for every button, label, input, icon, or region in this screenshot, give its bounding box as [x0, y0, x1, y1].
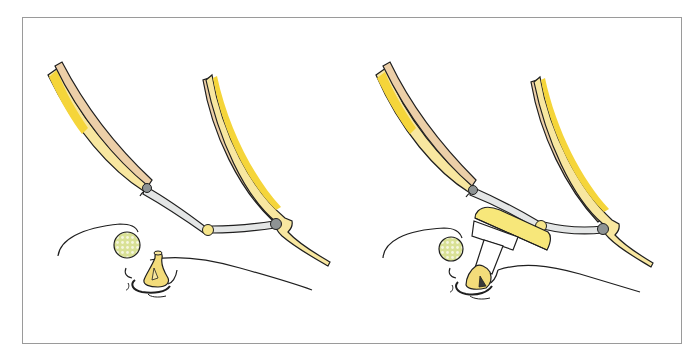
tissue-outlines — [58, 224, 312, 290]
paddle-attachment — [472, 207, 550, 274]
joint-gray-right — [271, 219, 282, 230]
left-blade-2 — [376, 62, 476, 197]
right-panel — [376, 62, 653, 299]
right-blade — [203, 75, 330, 266]
dotted-structure-right — [439, 237, 463, 261]
left-panel — [48, 62, 330, 297]
dotted-structure-left — [114, 232, 140, 258]
joint-gray-left — [143, 184, 152, 193]
bell-structure-right — [450, 265, 492, 299]
diagram-canvas — [0, 0, 697, 357]
left-blade — [48, 62, 152, 196]
joint-yellow-center — [203, 225, 214, 236]
